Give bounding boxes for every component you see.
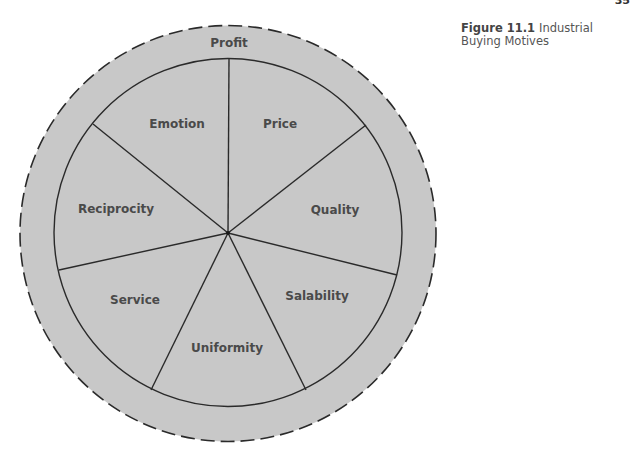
label-service: Service — [110, 293, 160, 307]
label-salability: Salability — [285, 289, 349, 303]
label-profit: Profit — [210, 36, 248, 50]
page-number: 35 — [615, 0, 630, 7]
label-emotion: Emotion — [149, 117, 205, 131]
label-price: Price — [263, 117, 297, 131]
figure-label: Figure 11.1 — [461, 21, 535, 35]
center-hub — [226, 231, 230, 235]
label-uniformity: Uniformity — [191, 341, 263, 355]
label-quality: Quality — [311, 203, 360, 217]
figure-caption: Figure 11.1Industrial Buying Motives — [461, 22, 634, 48]
buying-motives-diagram: Profit Price Quality Salability Uniformi… — [0, 0, 460, 468]
label-reciprocity: Reciprocity — [78, 202, 154, 216]
